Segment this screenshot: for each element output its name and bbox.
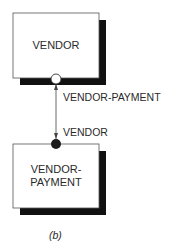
open-circle-marker-icon [51, 74, 61, 84]
vendor-payment-entity-label: VENDOR- PAYMENT [13, 163, 99, 189]
relationship-label-at-vendor: VENDOR-PAYMENT [63, 91, 161, 103]
diagram-canvas [0, 0, 179, 249]
vendor-payment-label-line1: VENDOR- [13, 163, 99, 176]
vendor-entity-label: VENDOR [13, 39, 99, 52]
filled-circle-marker-icon [51, 139, 61, 149]
arrowhead-down-icon [54, 133, 58, 139]
figure-caption: (b) [49, 229, 62, 241]
relationship-label-at-vendor-payment: VENDOR [63, 126, 108, 138]
vendor-payment-label-line2: PAYMENT [13, 176, 99, 189]
